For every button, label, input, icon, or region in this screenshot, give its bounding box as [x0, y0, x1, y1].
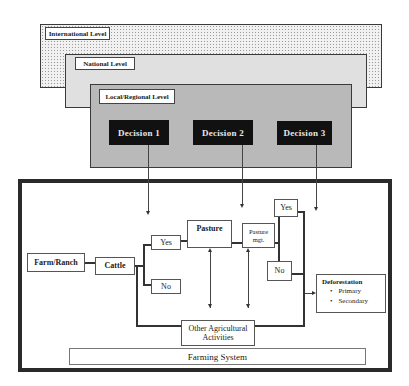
deforestation-item-primary: Primary [330, 287, 380, 296]
international-level-label: International Level [45, 27, 110, 40]
yes-1-node: Yes [151, 235, 181, 250]
decision-3-arrow-icon [314, 207, 318, 211]
right-merge-vertical [303, 211, 305, 327]
decision-2-connector [242, 145, 243, 204]
pasture-node: Pasture [187, 220, 232, 248]
other-ag-right-link [255, 325, 305, 327]
to-yes1-link [143, 244, 151, 246]
other-ag-left-vertical [136, 265, 138, 326]
mgt-bidir-down-icon [246, 304, 250, 308]
yes-2-node: Yes [274, 199, 298, 217]
decision-1-box: Decision 1 [109, 120, 169, 145]
decision-2-box: Decision 2 [193, 120, 253, 145]
decision-2-arrow-icon [240, 204, 244, 208]
pasture-mgt-node: Pasture mgt. [242, 223, 275, 248]
cattle-branch-vertical [143, 244, 145, 285]
mgt-bidir-up-icon [246, 248, 250, 252]
pasture-bidir-line [210, 252, 211, 308]
to-no1-link [143, 284, 151, 286]
national-level-label: National Level [75, 57, 135, 70]
cattle-node: Cattle [95, 257, 135, 275]
decision-1-arrow-icon [146, 211, 150, 215]
pasture-bidir-down-icon [208, 304, 212, 308]
decision-1-connector [148, 145, 149, 211]
no-2-node: No [267, 261, 292, 281]
decision-3-box: Decision 3 [277, 121, 332, 145]
farming-system-label: Farming System [69, 348, 366, 365]
farm-ranch-node: Farm/Ranch [27, 253, 85, 272]
mgt-bidir-line [248, 252, 249, 308]
deforestation-list: Primary Secondary [322, 287, 380, 306]
other-ag-left-link [136, 325, 181, 327]
other-agricultural-activities-node: Other Agricultural Activities [181, 320, 255, 346]
no-1-node: No [151, 279, 181, 294]
deforestation-node: Deforestation Primary Secondary [316, 274, 386, 313]
decision-3-connector [316, 145, 317, 207]
pasture-bidir-up-icon [208, 248, 212, 252]
deforestation-title: Deforestation [322, 278, 380, 287]
farm-to-cattle-link [85, 262, 95, 264]
deforestation-item-secondary: Secondary [330, 297, 380, 306]
local-regional-level-label: Local/Regional Level [99, 89, 175, 104]
pasture-to-mgt-link [232, 242, 242, 244]
